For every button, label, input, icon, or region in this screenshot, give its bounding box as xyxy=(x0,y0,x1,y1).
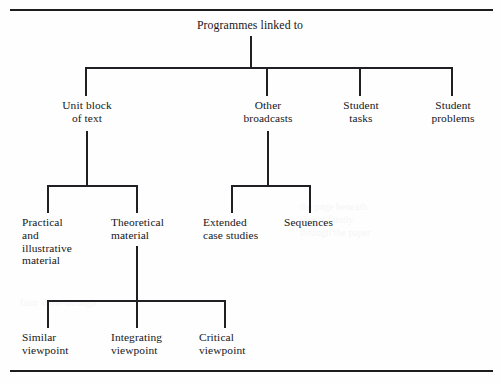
edge-drop-unit-block xyxy=(85,67,87,96)
edge-drop-practical xyxy=(47,185,49,213)
node-extended-case-studies: Extended case studies xyxy=(203,216,281,242)
edge-root-stem xyxy=(250,36,252,68)
edge-level2-bar xyxy=(85,67,453,69)
page-bleed-left: faint show-through xyxy=(20,296,190,309)
edge-other-broadcasts-stem xyxy=(267,131,269,186)
figure-page: the page beneath shows faintly through t… xyxy=(0,0,501,384)
node-other-broadcasts: Other broadcasts xyxy=(243,99,292,125)
page-rule-top xyxy=(10,9,493,11)
edge-unit-block-bar xyxy=(47,185,138,187)
edge-drop-extended-case-studies xyxy=(231,185,233,213)
edge-drop-sequences xyxy=(309,185,311,213)
edge-drop-similar-viewpoint xyxy=(47,300,49,328)
node-integrating-viewpoint: Integrating viewpoint xyxy=(111,331,191,357)
edge-unit-block-stem xyxy=(86,131,88,186)
edge-drop-other-broadcasts xyxy=(266,67,268,96)
node-student-problems: Student problems xyxy=(431,99,474,125)
edge-drop-critical-viewpoint xyxy=(224,300,226,328)
page-rule-bottom xyxy=(10,370,493,372)
node-similar-viewpoint: Similar viewpoint xyxy=(22,331,102,357)
edge-other-broadcasts-bar xyxy=(231,185,311,187)
node-critical-viewpoint: Critical viewpoint xyxy=(199,331,279,357)
node-practical-illustrative-material: Practical and illustrative material xyxy=(22,216,92,267)
edge-theoretical-stem xyxy=(136,246,138,301)
edge-drop-integrating-viewpoint xyxy=(136,300,138,328)
edge-drop-student-problems xyxy=(451,67,453,96)
node-sequences: Sequences xyxy=(284,216,354,229)
node-theoretical-material: Theoretical material xyxy=(111,216,186,242)
node-unit-block-of-text: Unit block of text xyxy=(62,99,111,125)
edge-drop-student-tasks xyxy=(359,67,361,96)
edge-drop-theoretical xyxy=(136,185,138,213)
node-student-tasks: Student tasks xyxy=(343,99,379,125)
node-root: Programmes linked to xyxy=(197,19,303,32)
